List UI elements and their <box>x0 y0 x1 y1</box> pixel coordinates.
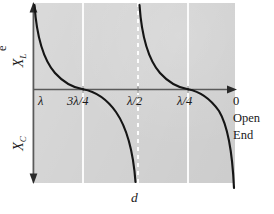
open-end-annotation-line1: Open <box>233 112 260 125</box>
y-axis <box>30 2 38 184</box>
figure-canvas: e XL XC λ 3λ/4 λ/2 λ/4 0 Open End d <box>0 0 274 214</box>
y-axis-label-inductive-text: X <box>11 59 26 68</box>
curve-branch-b-upper <box>140 5 189 89</box>
curve-branch-a-upper <box>35 5 84 89</box>
x-tick-label-lambda-over-four: λ/4 <box>177 95 192 108</box>
x-tick-label-three-lambda-over-four: 3λ/4 <box>67 95 88 108</box>
y-axis-label-inductive-sub: L <box>18 54 28 59</box>
curve-branch-b-lower <box>188 89 234 188</box>
x-tick-label-zero: 0 <box>233 95 239 108</box>
clipped-left-text: e <box>0 45 8 51</box>
y-axis-label-capacitive-sub: C <box>18 136 28 142</box>
x-tick-label-lambda: λ <box>38 95 43 108</box>
x-axis-title: d <box>131 191 138 205</box>
open-end-annotation-line2: End <box>233 129 253 142</box>
y-axis-label-capacitive: XC <box>12 131 29 155</box>
x-axis <box>33 85 237 93</box>
y-axis-label-inductive: XL <box>12 48 29 72</box>
y-axis-label-capacitive-text: X <box>11 142 26 151</box>
x-tick-label-lambda-over-two: λ/2 <box>127 95 142 108</box>
